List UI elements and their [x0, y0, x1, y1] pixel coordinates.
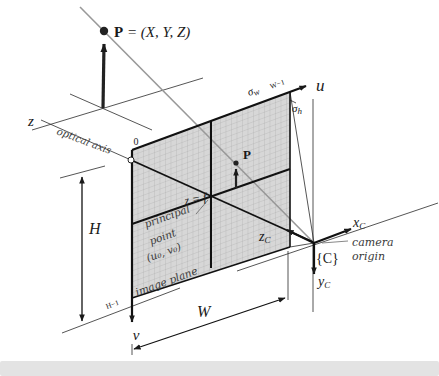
zc-subscript: C: [264, 235, 271, 245]
pixel-origin-zero-label: 0: [134, 136, 139, 147]
h-dim-top-extension: [60, 166, 105, 178]
yc-subscript: C: [324, 280, 331, 290]
height-dimension-label: H: [88, 220, 102, 237]
corner-ray-line: [290, 92, 314, 243]
camera-origin-label-line2: origin: [352, 250, 385, 263]
projected-point-dot: [233, 160, 238, 165]
sigma-w-label: σw: [246, 83, 262, 100]
camera-frame-label: {C}: [316, 251, 339, 266]
sigma-h-subscript: h: [297, 106, 302, 116]
projected-point-label: P: [243, 147, 251, 162]
point-3d-label-coords: = (X, Y, Z): [123, 24, 190, 41]
xc-subscript: C: [359, 221, 366, 231]
ground-line-z: [70, 94, 152, 130]
point-3d-dot: [100, 27, 108, 35]
w-minus-one-label: W−1: [269, 77, 286, 91]
h-minus-one-label: H−1: [105, 298, 121, 311]
point-3d-arrow: [103, 44, 104, 108]
width-dimension-label: W: [197, 303, 212, 320]
footer-bar: [0, 361, 439, 376]
diagram-canvas: P = (X, Y, Z) z optical axis 0 σw W−1 u …: [0, 0, 439, 376]
yc-axis-label: yC: [316, 274, 331, 290]
h-dim-bottom-extension: [62, 288, 180, 333]
point-3d-label-p: P: [114, 24, 123, 40]
point-3d-label: P = (X, Y, Z): [114, 24, 190, 41]
zc-axis: [287, 230, 314, 243]
xc-axis-label: xC: [352, 215, 366, 231]
optical-axis-edge-marker: [128, 157, 134, 163]
sigma-h-label: σh: [292, 102, 302, 116]
camera-model-diagram: P = (X, Y, Z) z optical axis 0 σw W−1 u …: [0, 0, 439, 376]
z-axis-label: z: [27, 113, 34, 129]
camera-origin-label-line1: camera: [352, 236, 393, 249]
v-axis-label: v: [133, 327, 140, 343]
optical-axis-label: optical axis: [55, 126, 113, 156]
ground-line-x: [32, 78, 203, 130]
u-axis-label: u: [316, 76, 325, 95]
